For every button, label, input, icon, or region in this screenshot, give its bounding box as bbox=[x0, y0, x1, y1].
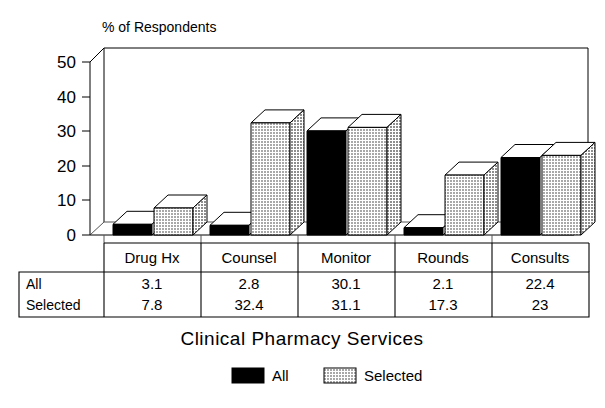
table-cell-all-consults: 22.4 bbox=[525, 275, 554, 292]
bar-selected-consults bbox=[542, 142, 595, 235]
y-tick-label-40: 40 bbox=[57, 88, 76, 107]
x-category-label-counsel: Counsel bbox=[221, 249, 276, 266]
chart-figure: 50 40 30 20 10 0 % of Respondents bbox=[0, 0, 605, 408]
bar-group-monitor bbox=[307, 114, 401, 235]
legend-swatch-all bbox=[232, 368, 264, 383]
bar-chart-svg: 50 40 30 20 10 0 % of Respondents bbox=[0, 0, 605, 408]
legend-item-selected: Selected bbox=[324, 367, 422, 384]
table-cell-all-drug-hx: 3.1 bbox=[142, 275, 163, 292]
table-cell-all-counsel: 2.8 bbox=[239, 275, 260, 292]
bar-selected-rounds bbox=[445, 162, 498, 235]
table-cell-all-monitor: 30.1 bbox=[331, 275, 360, 292]
bar-selected-monitor bbox=[348, 114, 401, 235]
y-tick-label-50: 50 bbox=[57, 53, 76, 72]
x-category-label-monitor: Monitor bbox=[321, 249, 371, 266]
table-row-label-all: All bbox=[26, 276, 42, 292]
y-tick-label-10: 10 bbox=[57, 191, 76, 210]
x-category-label-rounds: Rounds bbox=[417, 249, 469, 266]
legend-label-all: All bbox=[272, 367, 289, 384]
y-axis-title: % of Respondents bbox=[102, 19, 216, 35]
legend-label-selected: Selected bbox=[364, 367, 422, 384]
x-axis-title: Clinical Pharmacy Services bbox=[180, 328, 423, 349]
y-tick-label-20: 20 bbox=[57, 157, 76, 176]
table-row-label-selected: Selected bbox=[26, 297, 80, 313]
x-category-label-consults: Consults bbox=[511, 249, 569, 266]
y-tick-label-30: 30 bbox=[57, 122, 76, 141]
x-category-label-drug-hx: Drug Hx bbox=[124, 249, 180, 266]
legend-swatch-selected bbox=[324, 368, 356, 383]
y-tick-label-0: 0 bbox=[67, 226, 76, 245]
table-cell-selected-consults: 23 bbox=[532, 296, 549, 313]
bar-selected-drug-hx bbox=[154, 195, 207, 235]
table-cell-selected-rounds: 17.3 bbox=[428, 296, 457, 313]
chart-legend: All Selected bbox=[232, 367, 422, 384]
table-cell-selected-drug-hx: 7.8 bbox=[142, 296, 163, 313]
table-cell-selected-counsel: 32.4 bbox=[234, 296, 263, 313]
table-cell-selected-monitor: 31.1 bbox=[331, 296, 360, 313]
table-cell-all-rounds: 2.1 bbox=[433, 275, 454, 292]
legend-item-all: All bbox=[232, 367, 289, 384]
bar-selected-counsel bbox=[251, 110, 304, 235]
bar-group-consults bbox=[501, 142, 595, 235]
